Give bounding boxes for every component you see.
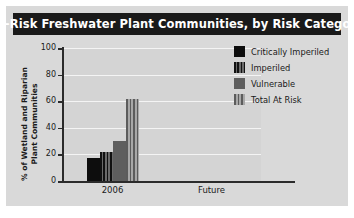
legend-label: Imperiled [251,63,290,73]
y-axis-tick-mark [58,181,62,183]
legend-swatch-vulnerable [234,78,245,89]
y-axis-tick-mark [58,48,62,50]
chart-figure: At-Risk Freshwater Plant Communities, by… [0,0,354,218]
legend-label: Vulnerable [251,79,295,89]
y-axis-tick-label: 40 [46,123,56,132]
legend-item: Imperiled [234,60,352,75]
x-axis-tick-label: Future [172,185,252,195]
legend-label: Critically Imperiled [251,47,329,57]
gridline [63,101,261,102]
chart-title-bar: At-Risk Freshwater Plant Communities, by… [13,13,341,35]
y-axis-line [62,47,64,182]
y-axis-title: % of Wetland and Riparian Plant Communit… [20,59,40,189]
bar-imperiled [100,152,113,181]
plot-area [63,48,261,181]
legend-item: Total At Risk [234,92,352,107]
gridline [63,128,261,129]
y-axis-tick-mark [58,75,62,77]
y-axis-tick-mark [58,154,62,156]
bar-critically-imperiled [87,158,100,181]
legend-label: Total At Risk [251,95,302,105]
bar-vulnerable [113,141,126,181]
gridline [63,154,261,155]
legend-item: Critically Imperiled [234,44,352,59]
y-axis-tick-label: 0 [51,176,56,185]
gridline [63,48,261,49]
chart-legend: Critically ImperiledImperiledVulnerableT… [234,44,352,108]
x-axis-line [62,181,295,183]
y-axis-tick-mark [58,128,62,130]
legend-swatch-imperiled [234,62,245,73]
y-axis-tick-label: 60 [46,96,56,105]
y-axis-tick-label: 20 [46,149,56,158]
legend-swatch-critically-imperiled [234,46,245,57]
y-axis-tick-mark [58,101,62,103]
legend-item: Vulnerable [234,76,352,91]
x-axis-tick-label: 2006 [73,185,153,195]
bar-total-at-risk [126,99,139,181]
legend-swatch-total-at-risk [234,94,245,105]
y-axis-tick-label: 80 [46,70,56,79]
gridline [63,75,261,76]
y-axis-tick-label: 100 [41,43,56,52]
